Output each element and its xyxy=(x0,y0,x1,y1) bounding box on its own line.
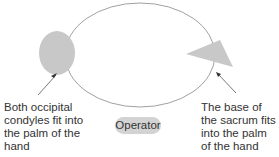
left-arrow xyxy=(38,75,56,95)
sacrum-triangle xyxy=(186,40,233,67)
left-annotation: Both occipital condyles fit into the pal… xyxy=(4,101,84,153)
operator-badge: Operator xyxy=(115,117,161,134)
right-annotation: The base of the sacrum fits into the pal… xyxy=(201,101,279,153)
occipital-circle xyxy=(39,31,75,75)
right-arrow xyxy=(218,74,236,93)
